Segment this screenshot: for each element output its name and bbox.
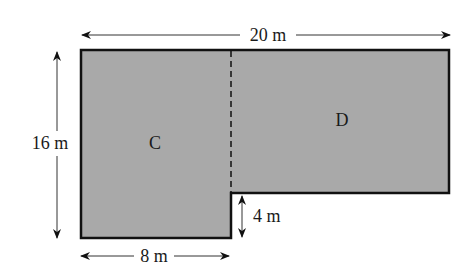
region-c-label: C <box>149 133 161 153</box>
total-height-label: 16 m <box>32 133 69 153</box>
region-d-label: D <box>336 110 349 130</box>
bottom-width-label: 8 m <box>140 246 168 266</box>
composite-shape-diagram: C D 20 m 16 m 8 m 4 m <box>0 0 467 277</box>
notch-height-label: 4 m <box>253 206 281 226</box>
total-width-label: 20 m <box>250 25 287 45</box>
diagram-svg: C D 20 m 16 m 8 m 4 m <box>0 0 467 277</box>
